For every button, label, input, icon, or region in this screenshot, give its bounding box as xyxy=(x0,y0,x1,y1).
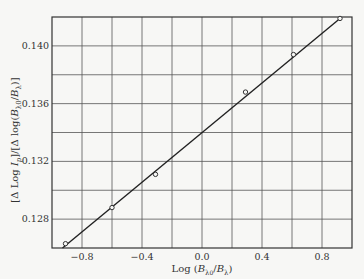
data-point-marker xyxy=(338,16,342,20)
y-tick-label: 0.132 xyxy=(22,155,49,166)
x-tick-label: −0.4 xyxy=(130,251,153,262)
x-tick-label: 0.4 xyxy=(254,251,269,262)
x-tick-label: 0.0 xyxy=(194,251,209,262)
x-axis-ticks: −0.8−0.40.00.40.8 xyxy=(70,251,329,262)
fit-line-segment xyxy=(63,18,341,248)
data-point-marker xyxy=(291,52,295,56)
x-axis-label: Log (Bλ0/Bλ) xyxy=(172,263,233,277)
x-tick-label: 0.8 xyxy=(314,251,329,262)
y-tick-label: 0.128 xyxy=(22,213,49,224)
x-tick-label: −0.8 xyxy=(70,251,93,262)
data-point-marker xyxy=(243,90,247,94)
data-point-marker xyxy=(153,172,157,176)
y-tick-label: 0.136 xyxy=(22,98,49,109)
y-tick-label: 0.140 xyxy=(22,40,49,51)
y-axis-label: [Δ Log Ip]/[Δ log(Bλ0/Bλ)] xyxy=(9,77,23,202)
data-point-marker xyxy=(110,205,114,209)
y-axis-ticks: 0.1280.1320.1360.140 xyxy=(22,40,49,224)
chart: −0.8−0.40.00.40.8 0.1280.1320.1360.140 L… xyxy=(0,0,364,279)
fit-line xyxy=(63,18,341,248)
data-point-marker xyxy=(63,241,67,245)
